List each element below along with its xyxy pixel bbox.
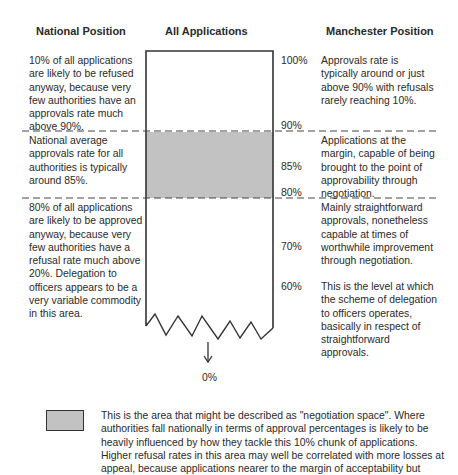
label-0-percent: 0%	[202, 371, 217, 384]
manchester-lower1-text: Mainly straightforward approvals, noneth…	[321, 201, 439, 267]
national-middle-text: National average approvals rate for all …	[29, 134, 141, 187]
label-100-percent: 100%	[281, 54, 308, 67]
national-top-text: 10% of all applications are likely to be…	[29, 54, 141, 134]
manchester-middle-text: Applications at the margin, capable of b…	[321, 134, 441, 200]
zigzag-break-line	[146, 314, 273, 339]
label-85-percent: 85%	[281, 160, 302, 173]
label-80-percent: 80%	[281, 186, 302, 199]
label-70-percent: 70%	[281, 240, 302, 253]
legend-swatch-negotiation-space	[46, 410, 84, 431]
legend-description: This is the area that might be described…	[101, 409, 451, 475]
label-90-percent: 90%	[281, 119, 302, 132]
down-arrow-icon	[204, 342, 212, 362]
label-60-percent: 60%	[281, 280, 302, 293]
manchester-top-text: Approvals rate is typically around or ju…	[321, 54, 436, 107]
national-bottom-text: 80% of all applications are likely to be…	[29, 201, 145, 321]
manchester-lower2-text: This is the level at which the scheme of…	[321, 280, 439, 360]
negotiation-space-band	[146, 132, 273, 198]
